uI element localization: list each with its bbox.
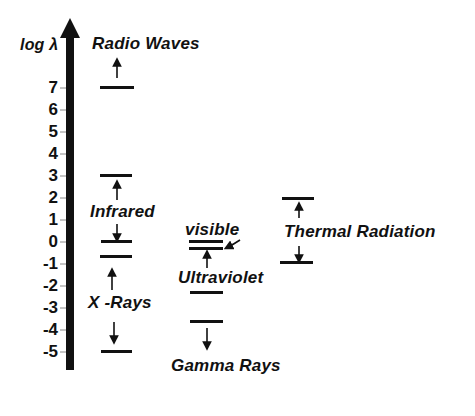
- xrays-lower-bar: [101, 350, 132, 353]
- tick-label: 7: [28, 78, 58, 98]
- tick-label: -1: [28, 254, 58, 274]
- infrared-label: Infrared: [90, 202, 155, 222]
- tick-label: 0: [28, 232, 58, 252]
- ultraviolet-lower-bar: [190, 291, 223, 294]
- tick-label: -4: [28, 320, 58, 340]
- gamma-upper-bar: [190, 320, 223, 323]
- tick-label: 5: [28, 122, 58, 142]
- gamma-rays-label: Gamma Rays: [171, 356, 281, 376]
- infrared-upper-bar: [100, 174, 132, 177]
- thermal-upper-bar: [282, 197, 314, 200]
- tick-label: -2: [28, 276, 58, 296]
- radio-lower-bar: [100, 86, 134, 89]
- infrared-lower-bar: [101, 240, 132, 243]
- thermal-lower-bar: [280, 261, 313, 264]
- tick-label: -5: [28, 342, 58, 362]
- tick-label: 2: [28, 188, 58, 208]
- thermal-radiation-label: Thermal Radiation: [284, 222, 436, 242]
- tick-label: 4: [28, 144, 58, 164]
- ultraviolet-label: Ultraviolet: [178, 268, 263, 288]
- axis-label: log λ: [20, 36, 58, 54]
- visible-label: visible: [185, 220, 239, 240]
- xrays-label: X -Rays: [88, 293, 152, 313]
- axis-arrowhead-icon: [60, 18, 80, 38]
- radio-waves-label: Radio Waves: [92, 34, 200, 54]
- xrays-upper-bar: [100, 255, 132, 258]
- tick-label: 1: [28, 210, 58, 230]
- visible-lower-bar: [189, 247, 223, 250]
- diagram-lines: [0, 0, 475, 416]
- tick-label: 6: [28, 100, 58, 120]
- tick-label: -3: [28, 298, 58, 318]
- tick-label: 3: [28, 166, 58, 186]
- visible-upper-bar: [189, 240, 223, 243]
- axis-shaft: [66, 34, 74, 370]
